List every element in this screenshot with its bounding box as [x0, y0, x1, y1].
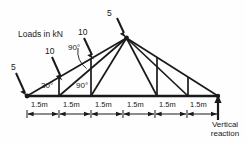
dimension-label-5: 1.5m — [159, 101, 176, 109]
truss-diagram: Loads in kN 5 10 10 5 30° 90° 90° 1.5m 1… — [0, 0, 246, 142]
dimension-label-3: 1.5m — [95, 101, 112, 109]
angle-label-base: 30° — [41, 82, 53, 90]
diagonal-left-inner — [91, 38, 127, 96]
load-label-lower-rafter: 10 — [45, 47, 54, 56]
dimension-label-6: 1.5m — [190, 101, 207, 109]
loads-unit-note: Loads in kN — [18, 30, 63, 39]
angle-label-rafter-lower: 90° — [76, 82, 88, 90]
right-rafter — [127, 38, 219, 96]
dimension-label-4: 1.5m — [127, 101, 144, 109]
load-label-apex: 5 — [107, 9, 112, 18]
dimension-line — [27, 110, 218, 118]
reaction-label-line1: Vertical — [205, 120, 245, 129]
load-arrow-upper-rafter — [84, 38, 94, 60]
reaction-arrow — [214, 95, 221, 120]
angle-label-rafter-upper: 90° — [68, 44, 80, 52]
reaction-label-line2: reaction — [205, 129, 245, 138]
dimension-label-2: 1.5m — [63, 101, 80, 109]
load-label-upper-rafter: 10 — [78, 28, 87, 37]
load-arrow-apex — [117, 18, 127, 38]
load-arrow-left-eave — [16, 73, 27, 96]
reaction-label: Vertical reaction — [205, 120, 245, 138]
dimension-label-1: 1.5m — [31, 101, 48, 109]
load-label-left-eave: 5 — [11, 63, 16, 72]
